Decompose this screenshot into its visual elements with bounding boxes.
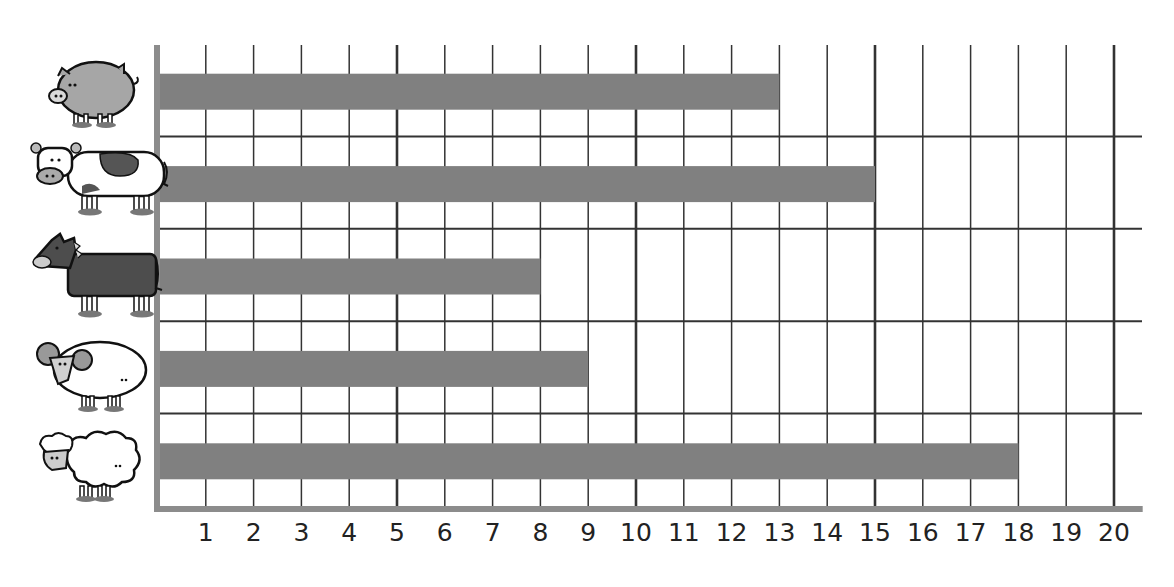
x-tick-label-19: 19	[1050, 518, 1082, 547]
x-tick-label-8: 8	[532, 518, 548, 547]
bar-chart: 1234567891011121314151617181920	[0, 0, 1174, 587]
x-tick-label-20: 20	[1098, 518, 1130, 547]
x-tick-label-9: 9	[580, 518, 596, 547]
x-tick-label-17: 17	[955, 518, 987, 547]
x-axis	[154, 506, 1143, 512]
bar-ram	[158, 351, 588, 387]
x-tick-label-11: 11	[668, 518, 700, 547]
x-tick-labels: 1234567891011121314151617181920	[198, 518, 1130, 547]
sheep-icon	[40, 432, 140, 502]
x-tick-label-14: 14	[811, 518, 843, 547]
bar-pig	[158, 74, 779, 110]
x-tick-label-3: 3	[293, 518, 309, 547]
x-tick-label-18: 18	[1002, 518, 1034, 547]
x-tick-label-5: 5	[389, 518, 405, 547]
x-tick-label-2: 2	[246, 518, 262, 547]
horse-icon	[33, 234, 162, 318]
bar-sheep	[158, 443, 1018, 479]
cow-icon	[31, 143, 168, 216]
x-tick-label-15: 15	[859, 518, 891, 547]
x-tick-label-1: 1	[198, 518, 214, 547]
x-tick-label-12: 12	[716, 518, 748, 547]
x-tick-label-7: 7	[485, 518, 501, 547]
pig-icon	[49, 62, 138, 128]
x-tick-label-13: 13	[763, 518, 795, 547]
x-tick-label-10: 10	[620, 518, 652, 547]
x-tick-label-6: 6	[437, 518, 453, 547]
x-tick-label-16: 16	[907, 518, 939, 547]
bar-cow	[158, 166, 875, 202]
x-tick-label-4: 4	[341, 518, 357, 547]
bar-horse	[158, 259, 540, 295]
ram-icon	[37, 342, 146, 412]
